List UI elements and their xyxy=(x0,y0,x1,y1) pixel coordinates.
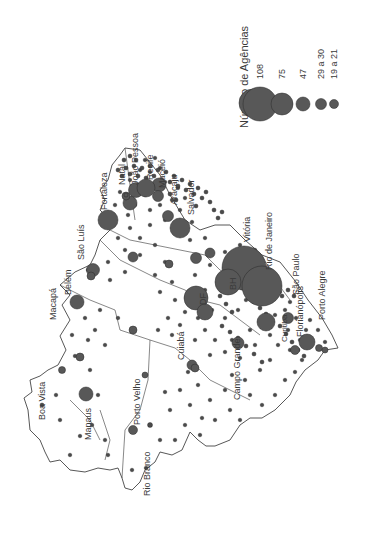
legend-small-svg xyxy=(0,0,373,536)
